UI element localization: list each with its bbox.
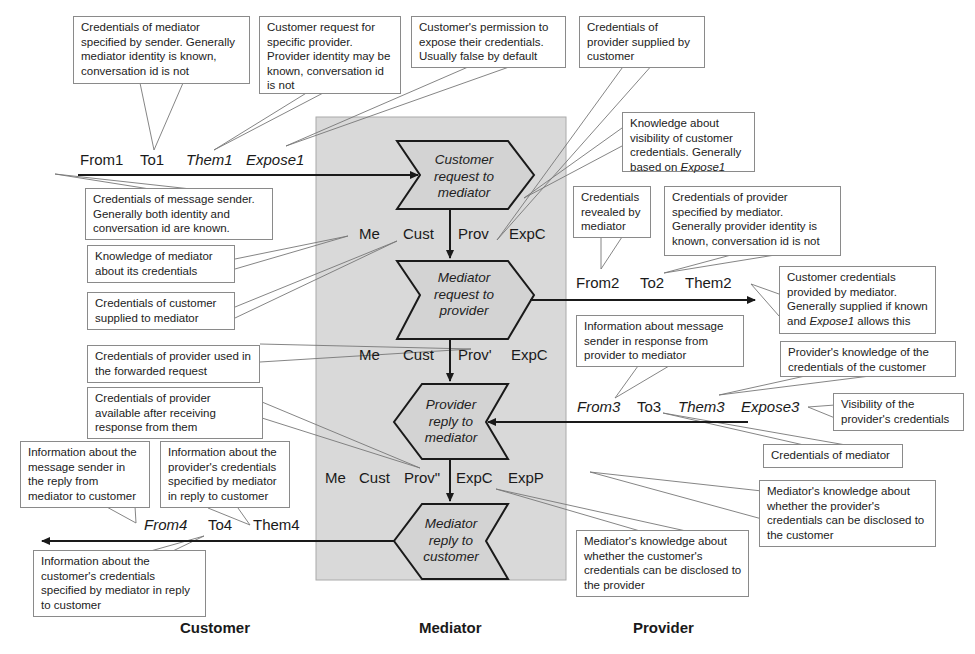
callout-to4: Information about the customer's credent…: [33, 550, 206, 617]
callout-them4: Information about the provider's credent…: [160, 441, 290, 508]
lane-title-provider: Provider: [633, 619, 694, 636]
callout-them3: Provider's knowledge of the credentials …: [780, 341, 956, 377]
callout-to3: Credentials of mediator: [763, 444, 903, 468]
callout-text: allows this: [854, 315, 910, 327]
state3-expp: ExpP: [508, 469, 544, 486]
callout-prov-after: Credentials of provider available after …: [87, 387, 263, 439]
callout-expose1: Customer's permission to expose their cr…: [411, 16, 566, 68]
state2-prov: Prov': [458, 346, 492, 363]
state2-cust: Cust: [403, 346, 434, 363]
callout-from1: Credentials of message sender. Generally…: [85, 188, 273, 240]
msg1-from: From1: [80, 151, 123, 168]
callout-from4: Information about the message sender in …: [20, 441, 150, 508]
state2-expc: ExpC: [511, 346, 548, 363]
msg2-to: To2: [640, 274, 664, 291]
callout-from2: Credentials revealed by mediator: [573, 186, 651, 238]
state1-cust: Cust: [403, 225, 434, 242]
msg3-to: To3: [637, 398, 661, 415]
state3-me: Me: [325, 469, 346, 486]
callout-emphasis: Expose1: [809, 315, 854, 327]
msg2-them: Them2: [685, 274, 732, 291]
msg4-them: Them4: [253, 516, 300, 533]
msg4-from: From4: [144, 516, 187, 533]
state1-prov: Prov: [458, 225, 489, 242]
msg1-them: Them1: [186, 151, 233, 168]
step-customer-request-label: Customer request to mediator: [418, 152, 510, 202]
msg2-from: From2: [576, 274, 619, 291]
callout-expc-visibility: Knowledge about visibility of customer c…: [622, 112, 755, 172]
msg4-to: To4: [208, 516, 232, 533]
callout-to1: Credentials of mediator specified by sen…: [73, 16, 250, 84]
callout-cust: Credentials of customer supplied to medi…: [87, 292, 235, 330]
state1-me: Me: [359, 225, 380, 242]
step-mediator-request-label: Mediator request to provider: [418, 270, 510, 320]
callout-expp: Mediator's knowledge about whether the p…: [759, 480, 936, 547]
msg3-from: From3: [577, 398, 620, 415]
callout-expc-disclose: Mediator's knowledge about whether the c…: [576, 530, 749, 597]
state1-expc: ExpC: [509, 225, 546, 242]
state3-cust: Cust: [359, 469, 390, 486]
diagram-canvas: Customer request to mediator Mediator re…: [0, 0, 975, 654]
step-mediator-reply-label: Mediator reply to customer: [410, 516, 492, 566]
callout-them2: Customer credentials provided by mediato…: [779, 266, 936, 334]
lane-title-customer: Customer: [180, 619, 250, 636]
state3-expc: ExpC: [456, 469, 493, 486]
step-provider-reply-label: Provider reply to mediator: [410, 397, 492, 447]
lane-title-mediator: Mediator: [419, 619, 482, 636]
callout-prov-forwarded: Credentials of provider used in the forw…: [87, 345, 260, 383]
msg1-to: To1: [140, 151, 164, 168]
callout-to2: Credentials of provider specified by med…: [664, 186, 841, 256]
callout-prov: Credentials of provider supplied by cust…: [579, 16, 705, 68]
msg3-them: Them3: [678, 398, 725, 415]
callout-expose3: Visibility of the provider's credentials: [833, 393, 964, 431]
msg1-expose: Expose1: [246, 151, 304, 168]
msg3-expose: Expose3: [741, 398, 799, 415]
callout-them1: Customer request for specific provider. …: [259, 16, 401, 94]
callout-emphasis: Expose1: [681, 161, 726, 173]
state2-me: Me: [359, 346, 380, 363]
state3-prov: Prov": [404, 469, 440, 486]
callout-from3: Information about message sender in resp…: [576, 315, 744, 367]
callout-me: Knowledge of mediator about its credenti…: [87, 245, 235, 283]
